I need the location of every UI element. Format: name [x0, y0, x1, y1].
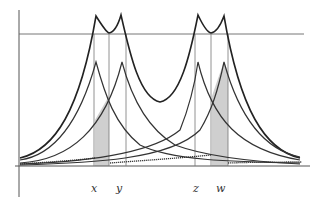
label-w: w: [216, 182, 226, 195]
label-z: z: [192, 182, 199, 195]
label-x: x: [91, 182, 98, 195]
component-curve-2: [20, 62, 300, 164]
envelope-curve: [20, 15, 300, 158]
component-curve-4: [20, 62, 300, 165]
shaded-region-xy: [95, 96, 109, 166]
component-curve-3: [20, 62, 300, 164]
dotted-curve-mid: [110, 155, 211, 163]
label-y: y: [115, 182, 123, 195]
diagram-canvas: x y z w: [0, 0, 320, 208]
